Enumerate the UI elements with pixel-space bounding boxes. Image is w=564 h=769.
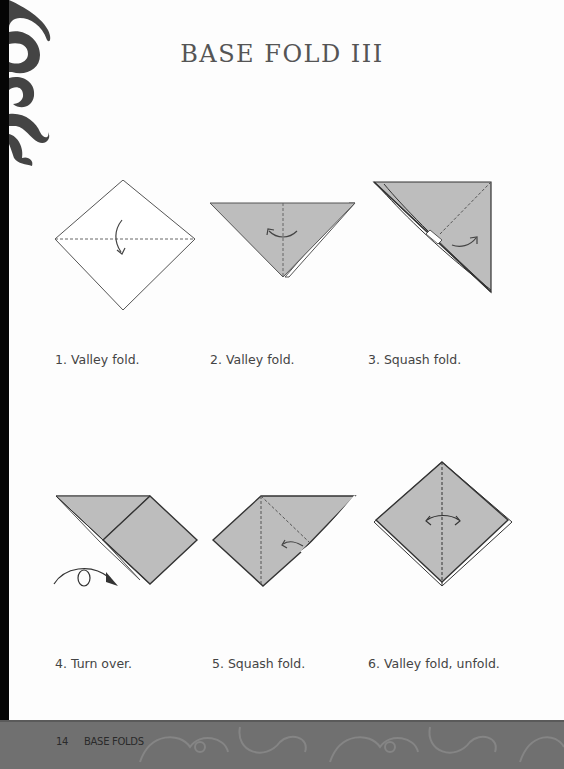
decorative-scroll-ornament-icon — [0, 0, 60, 180]
step-5-caption: 5. Squash fold. — [212, 656, 305, 671]
step-4-caption: 4. Turn over. — [55, 656, 132, 671]
page-title: BASE FOLD III — [0, 40, 564, 68]
step-2-caption: 2. Valley fold. — [210, 352, 295, 367]
step-6-valley-fold-unfold-icon — [360, 450, 520, 600]
step-2-valley-fold-icon — [205, 195, 365, 285]
step-3-squash-fold-icon — [360, 170, 510, 300]
step-1-caption: 1. Valley fold. — [55, 352, 140, 367]
step-5-squash-fold-icon — [205, 480, 365, 600]
step-6-caption: 6. Valley fold, unfold. — [368, 656, 500, 671]
page-number: 14 — [56, 736, 68, 747]
step-1-valley-fold-icon — [50, 180, 210, 320]
section-name: BASE FOLDS — [84, 736, 144, 747]
page-footer: 14 BASE FOLDS — [0, 720, 564, 769]
step-4-turn-over-icon — [40, 480, 210, 610]
step-3-caption: 3. Squash fold. — [368, 352, 461, 367]
